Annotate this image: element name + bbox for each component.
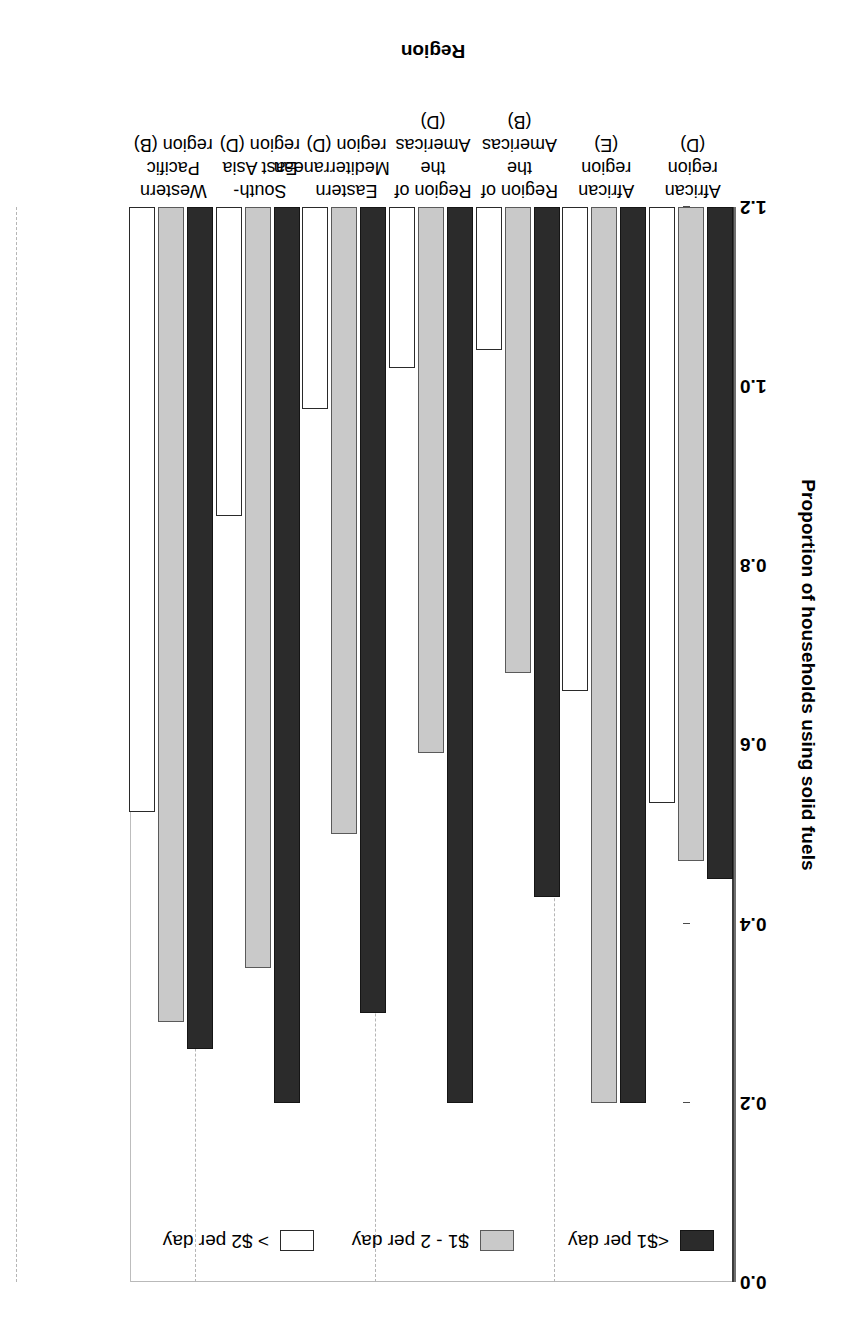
chart-figure-rotated-180: Proportion of households using solid fue… bbox=[0, 0, 854, 1330]
bar-group bbox=[215, 207, 302, 1282]
category-label-line: Americas (D) bbox=[390, 110, 477, 156]
bar-chart: Proportion of households using solid fue… bbox=[0, 0, 854, 1330]
bar[interactable] bbox=[534, 207, 560, 897]
bar-group bbox=[561, 207, 648, 1282]
white-empty-swatch bbox=[280, 1231, 314, 1252]
category-label-line: Western Pacific bbox=[130, 156, 217, 202]
black-filled-swatch bbox=[680, 1231, 714, 1252]
x-axis-category-label: Region of theAmericas (B) bbox=[476, 110, 563, 202]
bar[interactable] bbox=[158, 207, 184, 1022]
bar[interactable] bbox=[187, 207, 213, 1049]
bar[interactable] bbox=[331, 207, 357, 834]
bar[interactable] bbox=[389, 207, 415, 368]
legend-item[interactable]: > $2 per day bbox=[163, 1224, 314, 1258]
bar[interactable] bbox=[562, 207, 588, 691]
bar[interactable] bbox=[476, 207, 502, 350]
y-axis-tick-label: 0.0 bbox=[740, 1271, 800, 1293]
bar-group bbox=[388, 207, 475, 1282]
bar[interactable] bbox=[591, 207, 617, 1103]
legend-item[interactable]: $1 - 2 per day bbox=[352, 1224, 514, 1258]
category-label-line: African region bbox=[563, 156, 650, 202]
bar[interactable] bbox=[129, 207, 155, 812]
x-axis-category-label: EasternMediterraneanregion (D) bbox=[303, 133, 390, 202]
x-axis-title: Region bbox=[130, 40, 736, 62]
category-label-line: (D) bbox=[649, 133, 736, 156]
bar[interactable] bbox=[447, 207, 473, 1103]
legend-label: <$1 per day bbox=[568, 1230, 669, 1252]
y-axis-tick-label: 0.2 bbox=[740, 1092, 800, 1114]
y-axis-tick-label: 1.2 bbox=[740, 196, 800, 218]
x-axis-category-label: African region(D) bbox=[649, 133, 736, 202]
chart-legend: <$1 per day$1 - 2 per day> $2 per day bbox=[154, 1218, 714, 1258]
category-label-line: Region of the bbox=[390, 156, 477, 202]
x-axis-category-label: African region(E) bbox=[563, 133, 650, 202]
bar[interactable] bbox=[418, 207, 444, 753]
bar[interactable] bbox=[216, 207, 242, 516]
y-axis-tick-label: 0.6 bbox=[740, 734, 800, 756]
x-axis-category-label: South-East Asiaregion (D) bbox=[217, 133, 304, 202]
x-axis-category-label: Region of theAmericas (D) bbox=[390, 110, 477, 202]
legend-label: $1 - 2 per day bbox=[352, 1230, 469, 1252]
bar[interactable] bbox=[505, 207, 531, 673]
bar[interactable] bbox=[245, 207, 271, 968]
category-label-line: Americas (B) bbox=[476, 110, 563, 156]
gray-filled-swatch bbox=[480, 1231, 514, 1252]
x-axis-category-labels: African region(D)African region(E)Region… bbox=[130, 72, 736, 202]
category-label-line: Region of the bbox=[476, 156, 563, 202]
gridline bbox=[16, 207, 17, 1282]
y-axis-tick-label: 1.0 bbox=[740, 375, 800, 397]
bar[interactable] bbox=[678, 207, 704, 861]
bar[interactable] bbox=[707, 207, 733, 879]
category-label-line: South-East Asia bbox=[217, 156, 304, 202]
category-label-line: (E) bbox=[563, 133, 650, 156]
category-label-line: Eastern bbox=[303, 179, 390, 202]
x-axis-category-label: Western Pacificregion (B) bbox=[130, 133, 217, 202]
y-axis-tick-label: 0.8 bbox=[740, 554, 800, 576]
legend-label: > $2 per day bbox=[163, 1230, 269, 1252]
legend-item[interactable]: <$1 per day bbox=[568, 1224, 714, 1258]
y-axis-tick-labels: 0.00.20.40.60.81.01.2 bbox=[736, 0, 802, 1330]
bar[interactable] bbox=[274, 207, 300, 1103]
bar[interactable] bbox=[360, 207, 386, 1013]
category-label-line: region (B) bbox=[130, 133, 217, 156]
bar-group bbox=[128, 207, 215, 1282]
category-label-line: region (D) bbox=[303, 133, 390, 156]
plot-area bbox=[130, 207, 736, 1282]
bar[interactable] bbox=[620, 207, 646, 1103]
category-label-line: African region bbox=[649, 156, 736, 202]
category-label-line: Mediterranean bbox=[303, 156, 390, 179]
bar[interactable] bbox=[302, 207, 328, 409]
bar-group bbox=[647, 207, 734, 1282]
category-label-line: region (D) bbox=[217, 133, 304, 156]
bar-group bbox=[474, 207, 561, 1282]
bar[interactable] bbox=[649, 207, 675, 803]
bar-group bbox=[301, 207, 388, 1282]
y-axis-tick-label: 0.4 bbox=[740, 913, 800, 935]
